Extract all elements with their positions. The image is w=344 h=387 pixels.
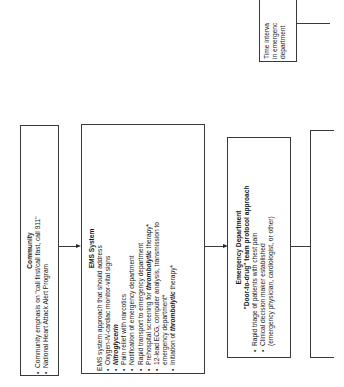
bracket-top-tick (310, 130, 334, 131)
ems-list: Oxygen-IV-cardiac monitor-vital signs Ni… (104, 126, 177, 371)
ems-item: Rapid transport to emergency department (137, 126, 145, 371)
time-interval-line: department (279, 23, 287, 59)
ems-item: Oxygen-IV-cardiac monitor-vital signs (104, 126, 112, 371)
ems-item-emphasis: Nitroglycerin (112, 324, 119, 365)
community-title: Community (26, 127, 34, 374)
time-interval-line: Time interva (263, 23, 271, 59)
ed-title: Emergency Department (235, 139, 243, 356)
ems-item: Pain relief with narcotics (120, 126, 128, 371)
connector-ems-ed (205, 246, 224, 247)
ed-subtitle: "Door-to-drug" team protocol approach (243, 139, 251, 356)
ed-item: Clinical decision maker established (259, 139, 267, 352)
ed-content: Emergency Department "Door-to-drug" team… (229, 139, 289, 356)
community-list: Community emphasis on "call first/call f… (34, 127, 50, 374)
ems-title: EMS System (88, 126, 96, 371)
ems-item: Notification of emergency department (128, 126, 136, 371)
ems-item: Initiation of thrombolytic therapy* (169, 126, 177, 371)
connector-community-ems (59, 246, 77, 247)
ems-content: EMS System EMS system approach that shou… (83, 126, 203, 372)
ems-item-text: Initiation of (169, 331, 176, 365)
ems-item: 12-lead ECG, computer analysis, transmis… (153, 126, 161, 371)
community-content: Community Community emphasis on "call fi… (22, 127, 58, 374)
ems-item-continuation: emergency department* (161, 126, 169, 371)
ems-item-emphasis: thrombolytic (145, 250, 152, 290)
ed-item: Rapid triage of patients with chest pain (251, 139, 259, 352)
ed-list: Rapid triage of patients with chest pain… (251, 139, 275, 356)
ems-intro: EMS system approach that should address (96, 126, 104, 371)
ems-item-text: therapy* (169, 265, 176, 291)
ed-item-continuation: (emergency physician, cardiologist, or o… (267, 139, 275, 352)
bracket-bottom-tick (310, 357, 334, 358)
connector-time-interval (297, 23, 330, 24)
ems-item: Prehospital screening for thrombolytic t… (145, 126, 153, 371)
ems-item-text: therapy* (145, 224, 152, 250)
community-item: Community emphasis on "call first/call f… (34, 127, 42, 374)
time-interval-text: Time interva in emergenc department (263, 23, 288, 59)
ems-item: Nitroglycerin (112, 126, 120, 371)
community-item: National Heart Attack Alert Program (42, 127, 50, 374)
time-interval-line: in emergenc (271, 23, 279, 59)
connector-ed-bracket (291, 246, 310, 247)
bracket-vertical (310, 130, 311, 358)
ems-item-text: Prehospital screening for (145, 290, 152, 365)
ems-item-emphasis: thrombolytic (169, 291, 176, 331)
